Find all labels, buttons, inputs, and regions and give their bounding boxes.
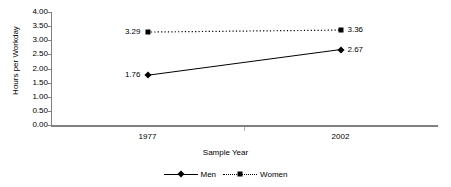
y-tick-label: 3.00 <box>14 36 48 44</box>
square-marker <box>145 30 150 35</box>
diamond-marker <box>177 170 184 177</box>
x-axis-title: Sample Year <box>0 148 451 157</box>
legend-entry-men[interactable]: Men <box>164 170 217 179</box>
y-tick-label: 2.50 <box>14 50 48 58</box>
square-marker <box>338 28 343 33</box>
legend-entry-women[interactable]: Women <box>223 170 287 179</box>
data-point-label: 3.36 <box>348 26 364 34</box>
data-point-label: 3.29 <box>125 28 141 36</box>
y-axis-tick-labels: 4.003.503.002.502.001.501.000.500.00 <box>14 8 48 126</box>
legend-swatch <box>223 170 257 179</box>
y-tick-label: 2.00 <box>14 65 48 73</box>
y-tick-label: 0.00 <box>14 121 48 129</box>
legend-label: Men <box>201 170 217 179</box>
data-point-label: 1.76 <box>125 71 141 79</box>
y-axis-line <box>51 12 52 126</box>
legend-swatch <box>164 170 198 179</box>
series-line-women <box>148 30 341 32</box>
y-tickmark <box>47 97 51 98</box>
legend-label: Women <box>260 170 287 179</box>
y-tick-label: 1.00 <box>14 93 48 101</box>
x-tick-label: 1977 <box>139 132 157 141</box>
series-lines <box>0 0 451 187</box>
series-line-men <box>148 50 341 76</box>
y-tickmark <box>47 40 51 41</box>
y-tick-label: 3.50 <box>14 22 48 30</box>
square-marker <box>238 172 243 177</box>
line-chart: Hours per Workday 4.003.503.002.502.001.… <box>0 0 451 187</box>
y-tickmark <box>47 12 51 13</box>
y-tickmark <box>47 83 51 84</box>
diamond-marker <box>337 46 344 53</box>
x-tick-label: 2002 <box>332 132 350 141</box>
x-tickmark <box>244 127 245 131</box>
y-tickmark <box>47 69 51 70</box>
y-tick-label: 0.50 <box>14 107 48 115</box>
y-tickmark <box>47 26 51 27</box>
y-tickmark <box>47 125 51 126</box>
diamond-marker <box>144 72 151 79</box>
chart-legend: MenWomen <box>0 170 451 179</box>
y-tickmark <box>47 111 51 112</box>
y-tick-label: 4.00 <box>14 8 48 16</box>
data-point-label: 2.67 <box>348 46 364 54</box>
y-tickmark <box>47 54 51 55</box>
y-tick-label: 1.50 <box>14 79 48 87</box>
